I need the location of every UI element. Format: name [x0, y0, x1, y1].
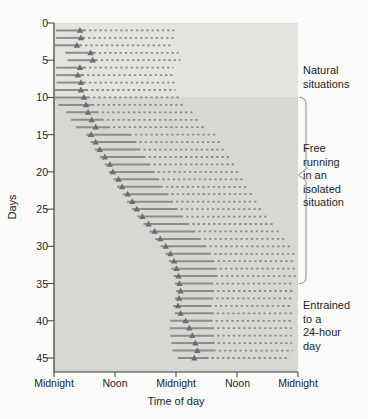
- x-tick-label: Midnight: [278, 377, 318, 389]
- annotation-line: in an: [303, 169, 367, 183]
- annotation-line: Natural: [303, 64, 367, 78]
- annotation-line: isolated: [303, 183, 367, 197]
- annotation-line: situation: [303, 196, 367, 210]
- y-tick-label: 30: [20, 240, 48, 252]
- annotation-line: running: [303, 156, 367, 170]
- x-tick-label: Noon: [225, 377, 250, 389]
- y-tick-label: 35: [20, 278, 48, 290]
- annotation-line: to a: [303, 313, 367, 327]
- x-tick-label: Midnight: [34, 377, 74, 389]
- y-tick-label: 10: [20, 91, 48, 103]
- y-tick-label: 15: [20, 129, 48, 141]
- y-tick-label: 45: [20, 352, 48, 364]
- actogram-figure: 0 5 10 15 20 25 30 35 40 45 Midnight Noo…: [0, 0, 368, 419]
- annotation-line: Free: [303, 142, 367, 156]
- y-tick-label: 0: [20, 17, 48, 29]
- x-tick-label: Midnight: [156, 377, 196, 389]
- annotation-line: 24-hour: [303, 326, 367, 340]
- annotation-line: Entrained: [303, 299, 367, 313]
- annotation-free-running: Free running in an isolated situation: [303, 142, 367, 210]
- y-tick-label: 40: [20, 315, 48, 327]
- y-tick-label: 20: [20, 166, 48, 178]
- annotation-line: day: [303, 340, 367, 354]
- annotation-line: situations: [303, 78, 367, 92]
- x-tick-label: Noon: [102, 377, 127, 389]
- y-tick-label: 25: [20, 203, 48, 215]
- x-axis-title: Time of day: [147, 395, 204, 407]
- annotation-natural-situations: Natural situations: [303, 64, 367, 91]
- y-tick-label: 5: [20, 54, 48, 66]
- annotation-entrained: Entrained to a 24-hour day: [303, 299, 367, 353]
- y-axis-title: Days: [6, 187, 18, 227]
